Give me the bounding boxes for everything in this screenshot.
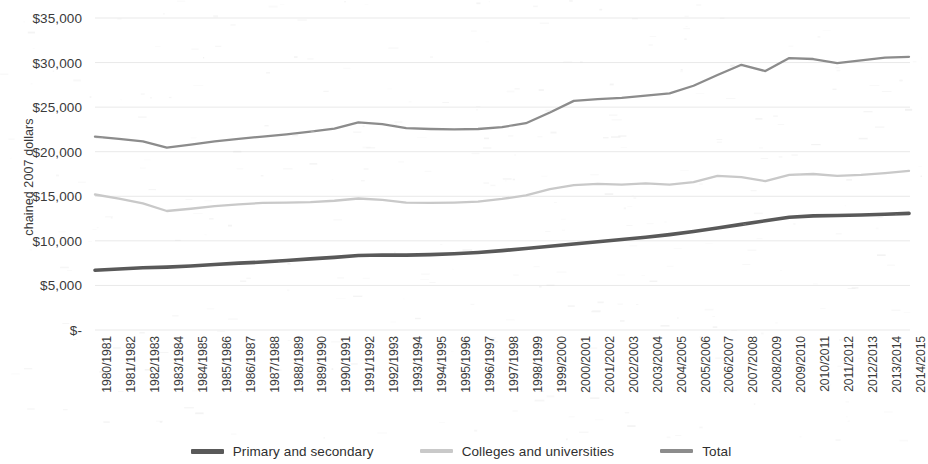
x-axis-tick-label: 1999/2000 — [555, 336, 569, 393]
x-axis-tick-label: 2011/2012 — [842, 336, 856, 392]
chart-legend: Primary and secondaryColleges and univer… — [0, 438, 922, 464]
x-axis-tick-label: 2005/2006 — [699, 336, 713, 393]
y-axis-tick-label: $35,000 — [33, 11, 83, 26]
x-axis-tick-label: 1994/1995 — [435, 336, 449, 393]
plot-area — [95, 18, 910, 330]
legend-swatch-icon — [191, 449, 224, 454]
x-axis-tick-label: 2003/2004 — [651, 336, 665, 393]
series-line — [95, 171, 909, 211]
series-line — [95, 57, 909, 148]
x-axis-tick-label: 2014/2015 — [914, 336, 928, 393]
legend-item[interactable]: Colleges and universities — [420, 444, 615, 459]
x-axis-tick-label: 2008/2009 — [770, 336, 784, 393]
x-axis-tick-label: 2002/2003 — [627, 336, 641, 393]
x-axis-tick-label: 2004/2005 — [675, 336, 689, 393]
plot-svg — [95, 18, 910, 330]
x-axis-tick-label: 1992/1993 — [387, 336, 401, 393]
x-axis-tick-label: 1990/1991 — [339, 336, 353, 393]
x-axis-tick-label: 1986/1987 — [244, 336, 258, 393]
x-axis-tick-label: 1996/1997 — [483, 336, 497, 393]
y-axis-tick-label: $15,000 — [33, 189, 83, 204]
legend-item[interactable]: Primary and secondary — [191, 444, 374, 459]
x-axis-tick-label: 1991/1992 — [363, 336, 377, 393]
x-axis-tick-label: 1997/1998 — [507, 336, 521, 393]
y-axis-tick-label: $25,000 — [33, 100, 83, 115]
y-axis-tick-label: $20,000 — [33, 144, 83, 159]
x-axis-tick-label: 1984/1985 — [196, 336, 210, 393]
x-axis-tick-label: 2006/2007 — [722, 336, 736, 393]
x-axis-tick-label: 2013/2014 — [890, 336, 904, 393]
x-axis-tick-label: 1993/1994 — [411, 336, 425, 393]
y-axis-tick-labels: $35,000$30,000$25,000$20,000$15,000$10,0… — [0, 0, 92, 345]
x-axis-tick-label: 2010/2011 — [818, 336, 832, 392]
x-axis-tick-label: 1998/1999 — [531, 336, 545, 393]
x-axis-tick-label: 1995/1996 — [459, 336, 473, 393]
legend-label: Colleges and universities — [462, 444, 615, 459]
x-axis-tick-label: 1982/1983 — [148, 336, 162, 393]
legend-label: Total — [702, 444, 731, 459]
x-axis-tick-label: 2000/2001 — [579, 336, 593, 393]
x-axis-tick-label: 2009/2010 — [794, 336, 808, 393]
x-axis-tick-label: 2012/2013 — [866, 336, 880, 393]
x-axis-tick-label: 1985/1986 — [220, 336, 234, 393]
y-axis-tick-label: $10,000 — [33, 233, 83, 248]
x-axis-tick-label: 1980/1981 — [100, 336, 114, 393]
x-axis-tick-label: 1983/1984 — [172, 336, 186, 393]
x-axis-tick-label: 2007/2008 — [746, 336, 760, 393]
series-line — [95, 213, 909, 270]
legend-swatch-icon — [660, 449, 693, 453]
y-axis-tick-label: $5,000 — [40, 278, 82, 293]
x-axis-tick-label: 1989/1990 — [315, 336, 329, 393]
x-axis-tick-label: 1987/1988 — [268, 336, 282, 393]
x-axis-tick-label: 1981/1982 — [124, 336, 138, 393]
legend-label: Primary and secondary — [233, 444, 374, 459]
y-axis-tick-label: $30,000 — [33, 55, 83, 70]
x-axis-tick-label: 2001/2002 — [603, 336, 617, 393]
legend-swatch-icon — [420, 449, 453, 453]
legend-item[interactable]: Total — [660, 444, 731, 459]
x-axis-tick-label: 1988/1989 — [292, 336, 306, 393]
x-axis-tick-labels: 1980/19811981/19821982/19831983/19841984… — [0, 336, 922, 436]
